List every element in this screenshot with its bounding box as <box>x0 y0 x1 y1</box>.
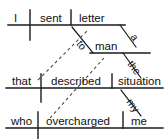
sentence-diagram: I sent letter a to man the that describe… <box>0 0 166 139</box>
diagram-canvas: I sent letter a to man the that describe… <box>0 0 166 139</box>
word-article-a: a <box>128 31 141 43</box>
word-preposition-to: to <box>74 38 89 52</box>
word-possessive-my: my <box>124 96 142 115</box>
word-relpron-that: that <box>12 75 32 87</box>
word-object-letter: letter <box>79 12 105 24</box>
word-relpron-who: who <box>10 115 32 127</box>
dashed-connector-that-man <box>38 30 88 80</box>
word-object-me: me <box>131 115 147 127</box>
word-verb-sent: sent <box>40 12 63 24</box>
word-verb-overcharged: overcharged <box>46 115 110 127</box>
word-object-man: man <box>95 40 117 52</box>
word-subject-i: I <box>14 12 17 24</box>
word-object-situation: situation <box>118 75 161 87</box>
word-verb-described: described <box>51 75 101 87</box>
